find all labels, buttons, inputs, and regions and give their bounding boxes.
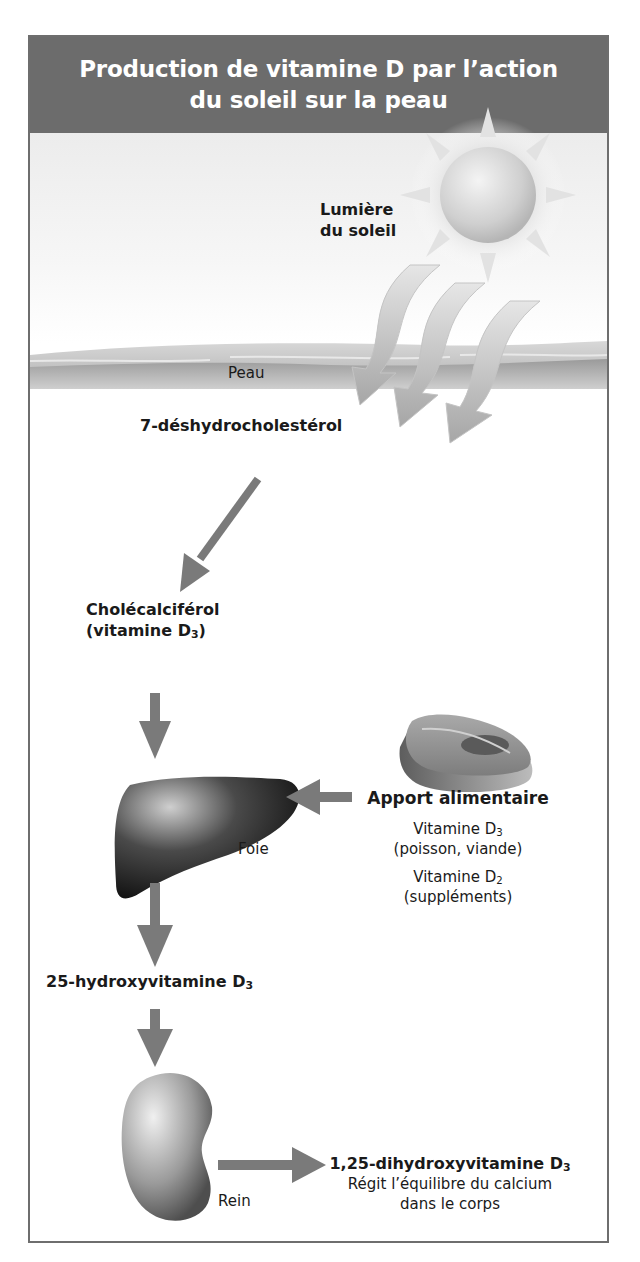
fish-steak-illustration: [400, 715, 533, 793]
diet-d2-source: (suppléments): [348, 887, 568, 907]
arrow-to-liver: [139, 693, 171, 759]
cholecalciferol-label: Cholécalciférol (vitamine D3): [86, 599, 219, 641]
arrow-kidney-to-dihydroxy: [218, 1147, 326, 1183]
arrow-diet-to-liver: [286, 779, 352, 815]
sunlight-label: Lumière du soleil: [320, 199, 396, 241]
dihydroxy-block: 1,25-dihydroxyvitamine D3 Régit l’équili…: [326, 1153, 574, 1214]
sunlight-label-line-1: Lumière: [320, 199, 396, 220]
diet-d3-label: Vitamine D3: [348, 819, 568, 839]
diagram-frame: Production de vitamine D par l’action du…: [28, 35, 609, 1243]
hydroxy-vitamin-d3-label: 25-hydroxyvitamine D3: [46, 971, 253, 992]
diet-d2-label: Vitamine D2: [348, 867, 568, 887]
liver-illustration: [115, 777, 300, 899]
precursor-label: 7-déshydrocholestérol: [140, 415, 342, 436]
arrow-to-kidney: [137, 1009, 173, 1067]
dihydroxy-vitamin-d3-label: 1,25-dihydroxyvitamine D3: [326, 1153, 574, 1174]
cholecalciferol-name: Cholécalciférol: [86, 599, 219, 620]
dihydroxy-desc-line-2: dans le corps: [326, 1194, 574, 1214]
dietary-intake-heading: Apport alimentaire: [348, 787, 568, 809]
sun-icon: [400, 107, 576, 283]
sunlight-label-line-2: du soleil: [320, 220, 396, 241]
arrow-precursor-to-cholecalciferol: [180, 479, 258, 592]
vitamin-d3-label: (vitamine D3): [86, 620, 219, 641]
diet-d3-source: (poisson, viande): [348, 839, 568, 859]
skin-label: Peau: [228, 363, 264, 383]
dietary-intake-block: Apport alimentaire Vitamine D3 (poisson,…: [348, 787, 568, 907]
kidney-illustration: [122, 1073, 213, 1221]
dihydroxy-desc-line-1: Régit l’équilibre du calcium: [326, 1174, 574, 1194]
kidney-label: Rein: [218, 1191, 251, 1211]
arrow-liver-to-25-hydroxy: [137, 883, 173, 967]
skin-layer-illustration: [30, 341, 607, 389]
liver-label: Foie: [238, 839, 269, 859]
